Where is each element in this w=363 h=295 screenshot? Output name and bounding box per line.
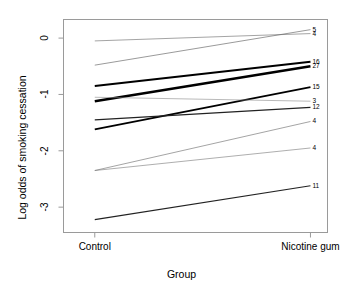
x-tick-label-0: Control bbox=[40, 241, 150, 252]
series-label-15: 15 bbox=[312, 83, 319, 90]
y-tick-label-1: -1 bbox=[38, 81, 52, 107]
y-axis-title: Log odds of smoking cessation bbox=[14, 0, 30, 295]
x-axis-title: Group bbox=[0, 268, 363, 280]
series-label-4c: 4 bbox=[312, 144, 316, 151]
series-label-12: 12 bbox=[312, 103, 319, 110]
y-tick-label-3: -3 bbox=[38, 194, 52, 220]
series-label-11: 11 bbox=[312, 182, 319, 189]
series-label-4b: 4 bbox=[312, 117, 316, 124]
y-tick-label-2: -2 bbox=[38, 138, 52, 164]
chart-figure: Log odds of smoking cessation Group Cont… bbox=[0, 0, 363, 295]
y-axis-ticks bbox=[59, 38, 64, 207]
series-label-27: 27 bbox=[312, 62, 319, 69]
series-label-4a: 4 bbox=[312, 30, 316, 37]
y-tick-label-0: 0 bbox=[38, 25, 52, 51]
series-lines bbox=[95, 30, 311, 220]
plot-frame bbox=[64, 20, 328, 233]
x-tick-label-1: Nicotine gum bbox=[255, 241, 363, 252]
x-axis-ticks bbox=[95, 233, 311, 238]
